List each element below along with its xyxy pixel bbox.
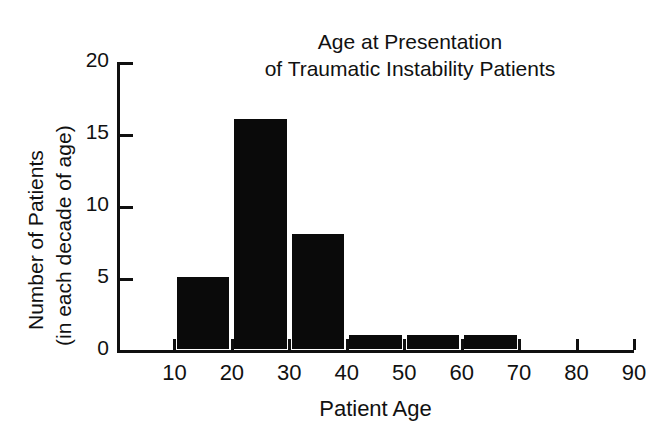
- y-tick-label-0: 0: [97, 336, 109, 360]
- x-axis-title: Patient Age: [117, 396, 634, 422]
- x-tick-label-20: 20: [220, 360, 244, 386]
- y-tick-label-10: 10: [86, 192, 109, 216]
- bar-40-50: [349, 335, 401, 349]
- y-tick-0: [120, 350, 133, 353]
- x-tick-label-80: 80: [564, 360, 588, 386]
- y-tick-10: [120, 206, 133, 209]
- y-tick-label-5: 5: [97, 264, 109, 288]
- bar-20-30: [234, 119, 286, 349]
- x-tick-70: [518, 339, 521, 350]
- y-tick-5: [120, 278, 133, 281]
- bar-60-70: [464, 335, 516, 349]
- chart-figure: Age at Presentation of Traumatic Instabi…: [0, 0, 671, 443]
- bar-50-60: [407, 335, 459, 349]
- x-tick-label-50: 50: [392, 360, 416, 386]
- chart-title-line-1: Age at Presentation: [230, 28, 590, 55]
- y-tick-20: [120, 62, 133, 65]
- x-tick-label-10: 10: [162, 360, 186, 386]
- y-tick-label-15: 15: [86, 120, 109, 144]
- x-tick-label-60: 60: [449, 360, 473, 386]
- x-tick-label-70: 70: [507, 360, 531, 386]
- y-tick-15: [120, 134, 133, 137]
- bar-30-40: [292, 234, 344, 349]
- x-tick-90: [633, 339, 636, 350]
- y-tick-label-20: 20: [86, 48, 109, 72]
- x-tick-80: [576, 339, 579, 350]
- x-tick-label-30: 30: [277, 360, 301, 386]
- y-axis-tick-labels: 05101520: [45, 62, 109, 353]
- bar-10-20: [177, 277, 229, 349]
- x-tick-label-90: 90: [622, 360, 646, 386]
- x-tick-label-40: 40: [335, 360, 359, 386]
- plot-area: 05101520 102030405060708090: [117, 62, 634, 352]
- x-axis-spine: [117, 350, 634, 353]
